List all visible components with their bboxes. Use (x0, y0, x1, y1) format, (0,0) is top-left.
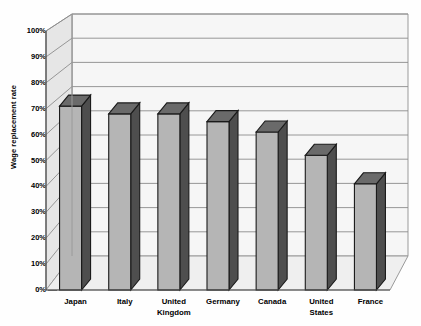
x-axis-category-labels: JapanItalyUnitedKingdomGermanyCanadaUnit… (0, 292, 421, 326)
x-axis-label-line: United (162, 297, 186, 306)
plot-svg (0, 0, 421, 326)
bar-side-face (327, 144, 336, 290)
x-axis-category-label: France (333, 297, 407, 308)
x-axis-label-line: Italy (117, 297, 133, 306)
x-axis-label-line: Canada (258, 297, 286, 306)
x-axis-label-line: Japan (64, 297, 87, 306)
bar (109, 103, 140, 290)
bar (305, 144, 336, 290)
bar-side-face (229, 111, 238, 290)
x-axis-label-line: Kingdom (157, 308, 191, 317)
bar-front-face (207, 122, 229, 290)
bar-front-face (60, 106, 82, 290)
bar-side-face (180, 103, 189, 290)
bar-chart: Wage replacement rate 100%90%80%70%60%50… (0, 0, 421, 326)
bar-front-face (305, 155, 327, 290)
x-axis-label-line: United (309, 297, 333, 306)
bar (256, 121, 287, 290)
x-axis-label-line: France (358, 297, 384, 306)
bar (60, 95, 91, 290)
bar (207, 111, 238, 290)
bar (158, 103, 189, 290)
plot-area (0, 0, 421, 326)
bar-side-face (376, 173, 385, 290)
bar-front-face (354, 184, 376, 290)
bar-side-face (278, 121, 287, 290)
x-axis-label-line: States (310, 308, 333, 317)
bar-side-face (131, 103, 140, 290)
bar-front-face (256, 132, 278, 290)
bar-side-face (82, 95, 91, 290)
bar-front-face (109, 114, 131, 290)
bar (354, 173, 385, 290)
bar-front-face (158, 114, 180, 290)
